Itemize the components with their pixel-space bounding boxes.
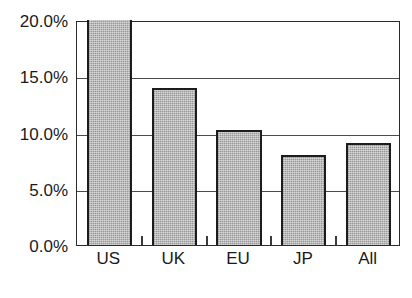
x-tick-label-jp: JP	[293, 250, 313, 267]
bar-us	[87, 20, 132, 245]
bar-eu	[216, 130, 261, 245]
x-tick-label-us: US	[97, 250, 121, 267]
y-tick-label: 5.0%	[0, 181, 68, 198]
y-axis: 0.0%5.0%10.0%15.0%20.0%	[0, 0, 72, 298]
x-axis: USUKEUJPAll	[76, 250, 400, 280]
plot-area	[76, 21, 400, 246]
bar-jp	[281, 155, 326, 245]
y-tick-label: 20.0%	[0, 13, 68, 30]
x-tick-mark	[206, 236, 208, 245]
bar-all	[346, 143, 391, 245]
x-tick-mark	[335, 236, 337, 245]
x-tick-label-eu: EU	[226, 250, 250, 267]
y-tick-label: 0.0%	[0, 238, 68, 255]
y-tick-label: 10.0%	[0, 125, 68, 142]
bar-uk	[152, 88, 197, 246]
x-tick-mark	[141, 236, 143, 245]
x-tick-label-all: All	[358, 250, 377, 267]
y-tick-label: 15.0%	[0, 69, 68, 86]
bars-group	[77, 22, 399, 245]
x-tick-label-uk: UK	[161, 250, 185, 267]
x-tick-mark	[270, 236, 272, 245]
bar-chart-figure: 0.0%5.0%10.0%15.0%20.0% USUKEUJPAll	[0, 0, 412, 298]
